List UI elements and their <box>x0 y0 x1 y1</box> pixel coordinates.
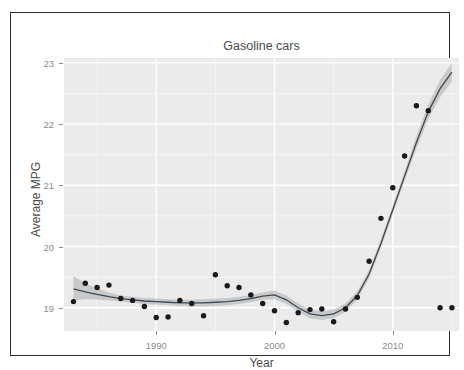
plot-canvas <box>64 58 459 331</box>
y-tick-mark <box>59 247 63 248</box>
clipped-top-text-artifact <box>0 0 464 11</box>
data-point <box>248 292 253 297</box>
data-point <box>118 296 123 301</box>
data-points <box>71 103 455 325</box>
y-axis-label: Average MPG <box>29 161 43 236</box>
data-point <box>260 301 265 306</box>
data-point <box>201 313 206 318</box>
data-point <box>142 304 147 309</box>
data-point <box>295 310 300 315</box>
x-tick-label: 2000 <box>264 340 285 351</box>
x-tick-mark <box>156 331 157 335</box>
data-point <box>106 282 111 287</box>
x-tick-mark <box>275 331 276 335</box>
y-tick-mark <box>59 63 63 64</box>
data-point <box>449 305 454 310</box>
plot-panel <box>64 58 459 331</box>
smooth-line <box>73 72 451 316</box>
y-tick-label: 20 <box>32 241 54 252</box>
data-point <box>284 320 289 325</box>
confidence-band <box>73 63 451 320</box>
y-tick-mark <box>59 124 63 125</box>
data-point <box>130 298 135 303</box>
y-tick-label: 19 <box>32 302 54 313</box>
data-point <box>71 299 76 304</box>
data-point <box>390 185 395 190</box>
data-point <box>402 153 407 158</box>
data-point <box>225 283 230 288</box>
data-point <box>331 319 336 324</box>
data-point <box>319 306 324 311</box>
data-point <box>94 285 99 290</box>
data-point <box>213 272 218 277</box>
x-tick-label: 1990 <box>146 340 167 351</box>
data-point <box>272 308 277 313</box>
data-point <box>355 295 360 300</box>
data-point <box>426 108 431 113</box>
data-point <box>189 301 194 306</box>
data-point <box>366 259 371 264</box>
x-tick-mark <box>393 331 394 335</box>
figure-frame: Gasoline cars 1920212223 199020002010 Av… <box>10 12 450 356</box>
data-point <box>343 306 348 311</box>
x-tick-label: 2010 <box>382 340 403 351</box>
y-tick-label: 22 <box>32 119 54 130</box>
y-tick-label: 23 <box>32 57 54 68</box>
y-tick-mark <box>59 308 63 309</box>
data-point <box>154 315 159 320</box>
data-point <box>165 314 170 319</box>
data-point <box>437 305 442 310</box>
data-point <box>83 281 88 286</box>
data-point <box>307 307 312 312</box>
data-point <box>177 298 182 303</box>
x-axis-label: Year <box>64 356 459 370</box>
data-point <box>414 103 419 108</box>
data-point <box>236 285 241 290</box>
data-point <box>378 216 383 221</box>
chart-title: Gasoline cars <box>64 39 459 53</box>
y-tick-mark <box>59 185 63 186</box>
